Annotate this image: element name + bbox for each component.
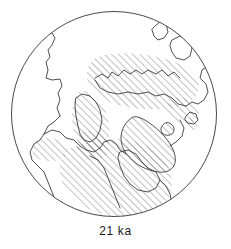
region-british-isles-ice <box>185 118 198 130</box>
figure-container: 21 ka <box>0 0 231 249</box>
region-iceland-ice <box>161 123 174 136</box>
figure-caption: 21 ka <box>0 224 231 239</box>
polar-projection-map <box>0 0 231 222</box>
